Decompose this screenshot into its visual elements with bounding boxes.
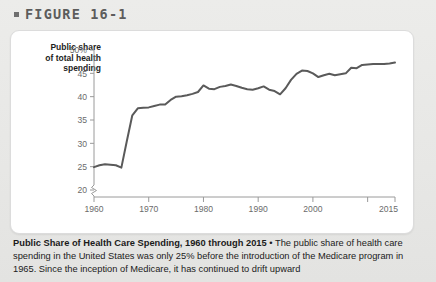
svg-text:1960: 1960 [84,204,103,214]
figure-card: Public share of total health spending 20… [10,30,414,234]
page-background: FIGURE 16-1 Public share of total health… [0,0,436,282]
caption-separator: • [269,238,272,248]
figure-label: FIGURE 16-1 [25,6,128,22]
svg-text:20: 20 [77,185,87,195]
svg-text:2015: 2015 [379,204,398,214]
svg-text:40: 40 [77,92,87,102]
line-chart: 20253035404550%196019701980199020002015 [11,31,413,233]
caption-title: Public Share of Health Care Spending, 19… [13,238,267,248]
figure-caption: Public Share of Health Care Spending, 19… [13,237,425,277]
svg-text:35: 35 [77,115,87,125]
svg-text:1990: 1990 [249,204,268,214]
square-bullet-icon [14,12,19,17]
svg-text:1980: 1980 [194,204,213,214]
svg-text:45: 45 [77,69,87,79]
svg-text:50%: 50% [70,45,88,55]
figure-header: FIGURE 16-1 [14,6,128,22]
chart-canvas: 20253035404550%196019701980199020002015 [11,31,413,233]
svg-text:30: 30 [77,139,87,149]
svg-text:1970: 1970 [139,204,158,214]
svg-text:2000: 2000 [303,204,322,214]
svg-text:25: 25 [77,162,87,172]
